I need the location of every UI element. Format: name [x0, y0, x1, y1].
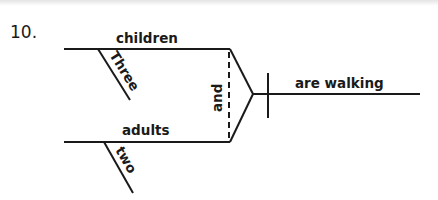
conjunction: and: [209, 84, 225, 112]
fork-line-bottom: [230, 94, 253, 142]
subject-noun-bottom: adults: [122, 122, 170, 138]
modifier-bottom: two: [112, 144, 140, 176]
item-number: 10.: [10, 22, 37, 42]
subject-noun-top: children: [116, 30, 178, 46]
sentence-diagram: 10. children Three adults two and are wa…: [0, 0, 438, 200]
predicate: are walking: [295, 75, 384, 91]
fork-line-top: [230, 49, 253, 94]
